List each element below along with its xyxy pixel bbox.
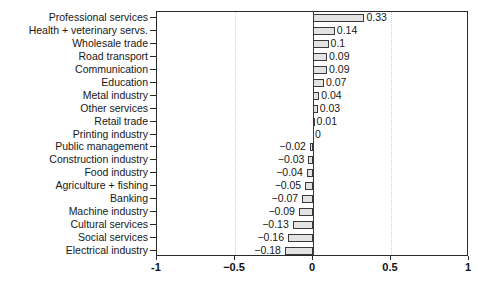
- y-axis-tick: [150, 198, 156, 199]
- bar: [313, 79, 324, 87]
- category-label: Wholesale trade: [0, 37, 148, 49]
- category-label: Communication: [0, 63, 148, 75]
- value-label: 0.09: [329, 50, 349, 62]
- category-label: Machine industry: [0, 205, 148, 217]
- value-label: 0.07: [326, 76, 346, 88]
- value-label: 0.33: [366, 11, 386, 23]
- category-label: Electrical industry: [0, 244, 148, 256]
- category-label: Metal industry: [0, 89, 148, 101]
- value-label: −0.02: [279, 140, 306, 152]
- bar: [313, 66, 327, 74]
- gridline: [391, 12, 393, 255]
- x-axis-tick-label: 1: [465, 261, 471, 273]
- category-label: Other services: [0, 102, 148, 114]
- bar: [313, 27, 335, 35]
- value-label: −0.13: [262, 218, 289, 230]
- x-axis-tick-label: 0.5: [382, 261, 397, 273]
- bar: [313, 105, 318, 113]
- category-label: Printing industry: [0, 128, 148, 140]
- x-axis-tick: [468, 256, 469, 260]
- y-axis-tick: [150, 159, 156, 160]
- value-label: 0.04: [321, 89, 341, 101]
- value-label: −0.07: [272, 192, 299, 204]
- y-axis-tick: [150, 172, 156, 173]
- y-axis-tick: [150, 82, 156, 83]
- bar: [305, 182, 313, 190]
- value-label: −0.09: [268, 205, 295, 217]
- y-axis-tick: [150, 17, 156, 18]
- bar: [302, 195, 313, 203]
- bar: [313, 40, 329, 48]
- y-axis-tick: [150, 43, 156, 44]
- category-label: Retail trade: [0, 115, 148, 127]
- bar: [285, 247, 313, 255]
- category-label: Cultural services: [0, 218, 148, 230]
- chart-figure: Professional servicesHealth + veterinary…: [0, 0, 479, 282]
- bar: [313, 118, 315, 126]
- bar: [313, 53, 327, 61]
- value-label: 0.14: [337, 24, 357, 36]
- bar: [293, 221, 313, 229]
- x-axis-tick-label: -1: [151, 261, 161, 273]
- category-label: Health + veterinary servs.: [0, 24, 148, 36]
- plot-area: [156, 11, 468, 256]
- y-axis-tick: [150, 185, 156, 186]
- x-axis-tick-label: −0.5: [223, 261, 245, 273]
- value-label: 0.03: [320, 102, 340, 114]
- bar: [313, 14, 364, 22]
- category-label: Banking: [0, 192, 148, 204]
- bar: [288, 234, 313, 242]
- value-label: −0.18: [254, 244, 281, 256]
- category-label: Construction industry: [0, 153, 148, 165]
- y-axis-tick: [150, 224, 156, 225]
- category-label: Professional services: [0, 11, 148, 23]
- bar: [310, 143, 313, 151]
- y-axis-tick: [150, 108, 156, 109]
- category-label: Social services: [0, 231, 148, 243]
- y-axis-tick: [150, 237, 156, 238]
- value-label: 0.1: [331, 37, 346, 49]
- y-axis-tick: [150, 121, 156, 122]
- category-label: Public management: [0, 140, 148, 152]
- value-label: 0.09: [329, 63, 349, 75]
- y-axis-tick: [150, 250, 156, 251]
- y-axis-tick: [150, 211, 156, 212]
- category-label: Agriculture + fishing: [0, 179, 148, 191]
- value-label: −0.16: [257, 231, 284, 243]
- x-axis-tick: [234, 256, 235, 260]
- y-axis-tick: [150, 56, 156, 57]
- x-axis-tick: [390, 256, 391, 260]
- category-label: Education: [0, 76, 148, 88]
- x-axis-tick: [156, 256, 157, 260]
- zero-axis-line: [313, 12, 314, 255]
- gridline: [235, 12, 237, 255]
- bar: [299, 208, 313, 216]
- y-axis-tick: [150, 30, 156, 31]
- bar: [307, 169, 313, 177]
- value-label: 0.01: [317, 115, 337, 127]
- x-axis-tick: [312, 256, 313, 260]
- value-label: 0: [315, 128, 321, 140]
- y-axis-tick: [150, 134, 156, 135]
- y-axis-tick: [150, 146, 156, 147]
- value-label: −0.03: [278, 153, 305, 165]
- bar: [313, 92, 319, 100]
- bar: [308, 156, 313, 164]
- x-axis-tick-label: 0: [309, 261, 315, 273]
- value-label: −0.05: [275, 179, 302, 191]
- category-label: Road transport: [0, 50, 148, 62]
- y-axis-tick: [150, 95, 156, 96]
- category-label: Food industry: [0, 166, 148, 178]
- value-label: −0.04: [276, 166, 303, 178]
- y-axis-tick: [150, 69, 156, 70]
